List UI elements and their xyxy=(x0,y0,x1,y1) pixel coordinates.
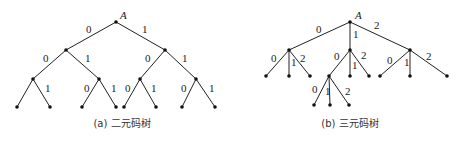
binary-node xyxy=(180,105,184,109)
ternary-edge-label: 0 xyxy=(271,52,277,64)
ternary-node xyxy=(445,74,449,78)
ternary-node xyxy=(308,74,312,78)
binary-edge xyxy=(140,50,165,79)
binary-node xyxy=(31,77,35,81)
ternary-edge-label: 1 xyxy=(325,85,331,97)
ternary-edge-label: 0 xyxy=(387,54,393,66)
binary-edge-label: 1 xyxy=(111,82,117,94)
ternary-edge xyxy=(266,50,289,76)
ternary-code-tree: 012012012012012 xyxy=(264,19,449,107)
ternary-tree-caption: (b) 三元码树 xyxy=(321,117,378,129)
ternary-edge-label: 0 xyxy=(334,50,340,62)
binary-node xyxy=(213,105,217,109)
ternary-edge-label: 2 xyxy=(374,19,380,31)
binary-edge xyxy=(17,79,33,107)
binary-edge-label: 1 xyxy=(85,52,91,64)
binary-edge-label: 0 xyxy=(181,82,187,94)
binary-edge-label: 1 xyxy=(45,82,51,94)
ternary-node xyxy=(328,103,332,107)
ternary-node xyxy=(287,74,291,78)
ternary-edge-label: 1 xyxy=(404,56,410,68)
ternary-node xyxy=(312,103,316,107)
binary-node xyxy=(122,105,126,109)
ternary-node xyxy=(367,74,371,78)
binary-edge-label: 1 xyxy=(182,52,188,64)
binary-edge xyxy=(66,50,99,79)
ternary-node xyxy=(378,74,382,78)
binary-edge-label: 1 xyxy=(151,82,157,94)
binary-node xyxy=(154,105,158,109)
ternary-root-label: A xyxy=(354,9,362,21)
binary-node xyxy=(64,48,68,52)
ternary-edge-label: 0 xyxy=(312,83,318,95)
binary-code-tree: 0101011010101 xyxy=(15,20,217,109)
ternary-node xyxy=(348,48,352,52)
binary-node xyxy=(97,77,101,81)
binary-edge-label: 1 xyxy=(142,23,148,35)
ternary-edge xyxy=(350,22,410,50)
binary-tree-caption: (a) 二元码树 xyxy=(93,117,150,129)
code-trees-figure: 0101011010101 A (a) 二元码树 012012012012012… xyxy=(0,0,460,141)
ternary-node xyxy=(347,103,351,107)
binary-edge-label: 0 xyxy=(145,52,151,64)
ternary-node xyxy=(287,48,291,52)
ternary-edge xyxy=(329,50,350,76)
binary-edge-label: 0 xyxy=(86,23,92,35)
binary-edge xyxy=(116,22,165,50)
binary-node xyxy=(138,77,142,81)
ternary-node xyxy=(408,74,412,78)
ternary-edge-label: 1 xyxy=(352,59,358,71)
binary-node xyxy=(15,105,19,109)
binary-edge xyxy=(165,50,196,79)
ternary-edge-label: 0 xyxy=(316,23,322,35)
ternary-edge-label: 2 xyxy=(426,50,432,62)
binary-edge xyxy=(33,50,66,79)
binary-node xyxy=(194,77,198,81)
ternary-node xyxy=(348,74,352,78)
ternary-node xyxy=(264,74,268,78)
binary-node xyxy=(80,105,84,109)
ternary-edge-label: 2 xyxy=(300,52,306,64)
binary-edge-label: 0 xyxy=(43,52,49,64)
ternary-node xyxy=(348,20,352,24)
binary-edge-label: 1 xyxy=(209,82,215,94)
binary-node xyxy=(163,48,167,52)
ternary-node xyxy=(327,74,331,78)
ternary-edge-label: 1 xyxy=(353,28,359,40)
ternary-edge-label: 2 xyxy=(361,49,367,61)
binary-node xyxy=(48,105,52,109)
binary-node xyxy=(114,20,118,24)
binary-root-label: A xyxy=(119,9,127,21)
ternary-edge-label: 2 xyxy=(345,85,351,97)
binary-edge-label: 0 xyxy=(84,82,90,94)
binary-edge-label: 0 xyxy=(125,82,131,94)
binary-node xyxy=(114,105,118,109)
ternary-node xyxy=(408,48,412,52)
